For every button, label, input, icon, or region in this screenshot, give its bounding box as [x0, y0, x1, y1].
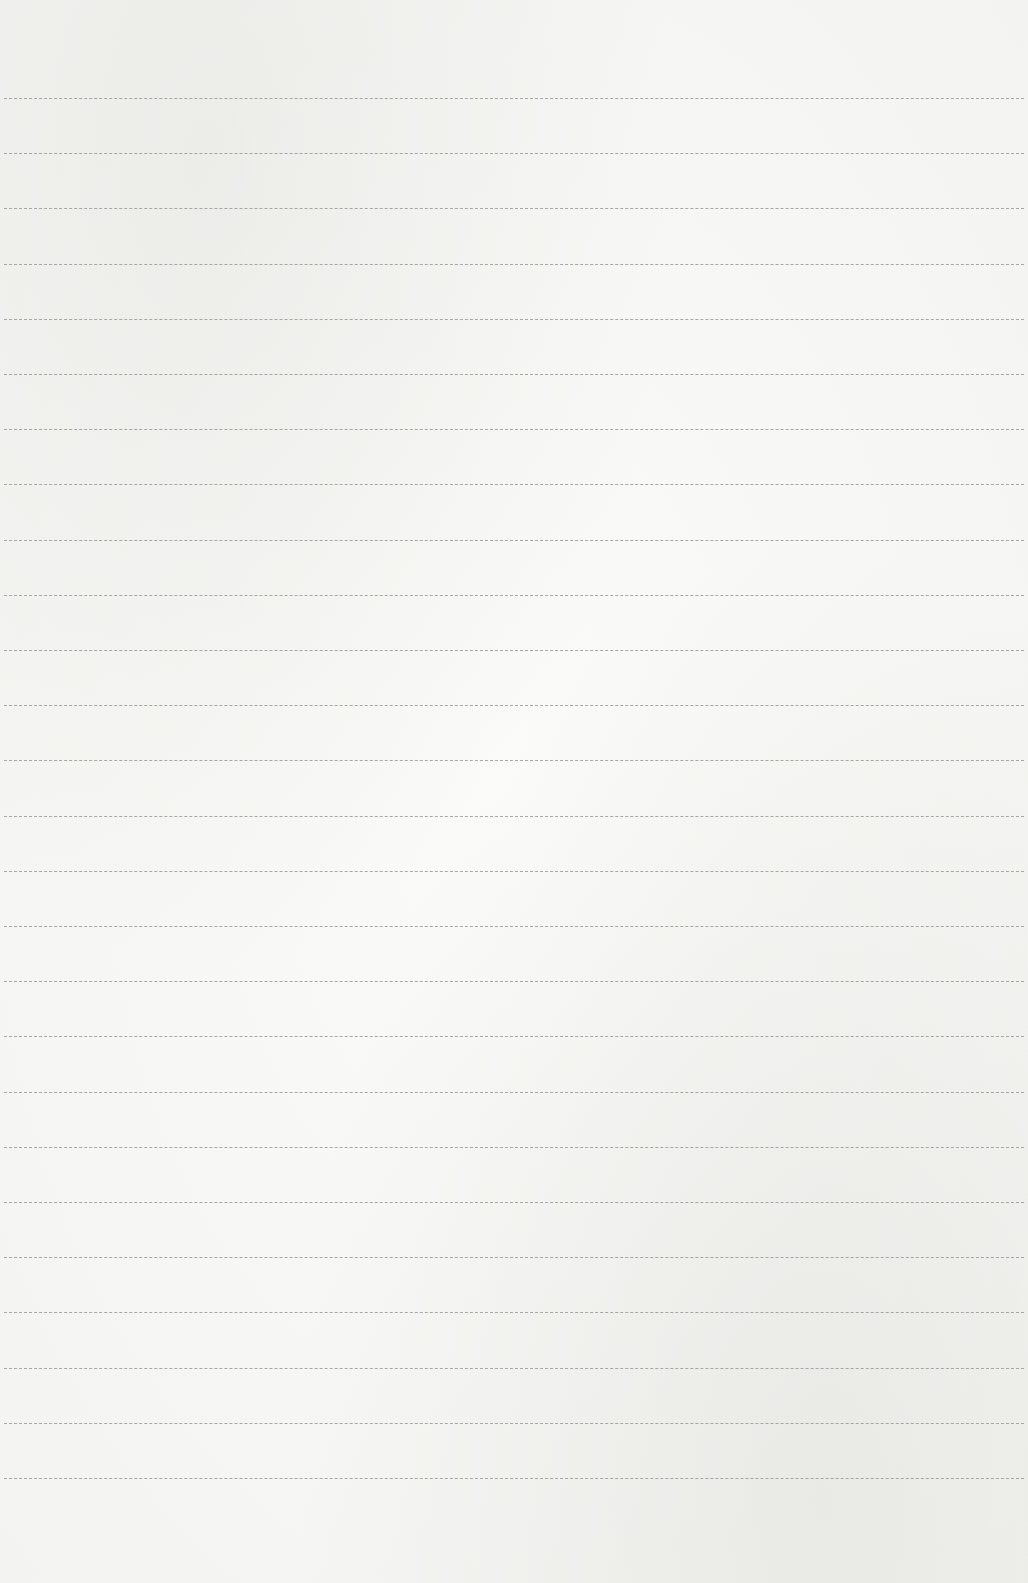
ruled-line: [4, 1312, 1024, 1313]
ruled-line: [4, 1368, 1024, 1369]
ruled-line: [4, 540, 1024, 541]
ruled-line: [4, 1036, 1024, 1037]
ruled-line: [4, 871, 1024, 872]
ruled-line: [4, 98, 1024, 99]
ruled-line: [4, 1257, 1024, 1258]
ruled-line: [4, 1147, 1024, 1148]
ruled-line: [4, 816, 1024, 817]
ruled-line: [4, 374, 1024, 375]
ruled-line: [4, 484, 1024, 485]
ruled-line: [4, 264, 1024, 265]
ruled-line: [4, 705, 1024, 706]
ruled-line: [4, 429, 1024, 430]
ruled-line: [4, 153, 1024, 154]
ruled-line: [4, 760, 1024, 761]
ruled-line: [4, 1478, 1024, 1479]
ruled-line: [4, 1092, 1024, 1093]
ruled-line: [4, 1423, 1024, 1424]
ruled-paper-sheet: [0, 0, 1028, 1583]
ruled-line: [4, 595, 1024, 596]
ruled-line: [4, 981, 1024, 982]
ruled-line: [4, 926, 1024, 927]
ruled-line: [4, 650, 1024, 651]
ruled-line: [4, 208, 1024, 209]
ruled-line: [4, 319, 1024, 320]
ruled-line: [4, 1202, 1024, 1203]
